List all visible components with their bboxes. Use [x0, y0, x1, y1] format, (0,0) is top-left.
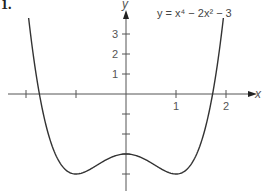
equation-label: y = x⁴ − 2x² − 3: [157, 7, 232, 19]
y-tick-label: 3: [112, 28, 118, 40]
axes: [8, 10, 257, 191]
y-axis-label: y: [121, 0, 129, 11]
y-tick-label: 2: [112, 48, 118, 60]
y-tick-label: 1: [112, 68, 118, 80]
y-axis-arrow-icon: [123, 10, 129, 19]
x-axis-label: x: [254, 87, 262, 101]
function-graph: 12123 y = x⁴ − 2x² − 3 x y: [0, 0, 264, 191]
x-tick-label: 2: [223, 100, 229, 112]
x-tick-label: 1: [173, 100, 179, 112]
